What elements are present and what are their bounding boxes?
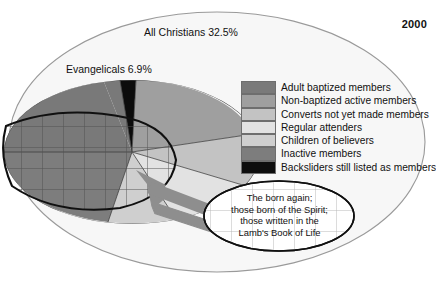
legend-item-children[interactable]: Children of believers	[241, 134, 431, 147]
callout-line-2: those born of the Spirit;	[212, 204, 347, 216]
legend-swatch-regular-attenders	[241, 121, 276, 134]
callout-text: The born again; those born of the Spirit…	[212, 192, 347, 238]
legend-label-converts: Converts not yet made members	[281, 108, 429, 121]
legend-swatch-converts	[241, 108, 276, 121]
legend-item-regular-attenders[interactable]: Regular attenders	[241, 121, 431, 134]
legend-label-regular-attenders: Regular attenders	[281, 121, 362, 134]
legend-swatch-children	[241, 134, 276, 147]
legend-swatch-non-baptized	[241, 94, 276, 107]
legend-label-children: Children of believers	[281, 134, 374, 147]
legend-swatch-inactive	[241, 147, 276, 160]
legend-swatch-adult-baptized	[241, 81, 276, 94]
year-label: 2000	[402, 18, 427, 30]
all-christians-label: All Christians 32.5%	[144, 26, 238, 38]
legend-item-inactive[interactable]: Inactive members	[241, 147, 431, 160]
legend: Adult baptized members Non-baptized acti…	[241, 81, 431, 174]
chart-canvas: 2000 All Christians 32.5% Evangelicals 6…	[0, 0, 436, 286]
legend-item-converts[interactable]: Converts not yet made members	[241, 108, 431, 121]
evangelicals-label: Evangelicals 6.9%	[66, 63, 152, 75]
legend-item-adult-baptized[interactable]: Adult baptized members	[241, 81, 431, 94]
legend-label-inactive: Inactive members	[281, 147, 361, 160]
legend-label-backsliders: Backsliders still listed as members	[281, 161, 436, 174]
legend-item-backsliders[interactable]: Backsliders still listed as members	[241, 161, 431, 174]
legend-item-non-baptized[interactable]: Non-baptized active members	[241, 94, 431, 107]
legend-swatch-backsliders	[241, 161, 276, 174]
legend-label-adult-baptized: Adult baptized members	[281, 81, 391, 94]
callout-line-1: The born again;	[212, 192, 347, 204]
callout-line-4: Lamb's Book of Life	[212, 227, 347, 239]
callout-line-3: those written in the	[212, 215, 347, 227]
legend-label-non-baptized: Non-baptized active members	[281, 94, 416, 107]
